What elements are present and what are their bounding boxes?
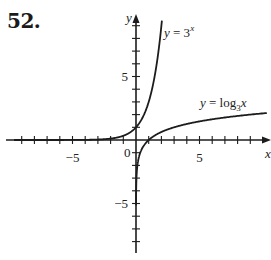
figure: 52. yx0−555−5y = 3xy = log3x — [0, 0, 271, 260]
y-tick-label: 5 — [122, 69, 129, 84]
y-tick-label: −5 — [114, 196, 128, 211]
origin-label: 0 — [124, 145, 131, 160]
axes — [6, 14, 271, 253]
x-tick-label: −5 — [66, 150, 80, 165]
exponential-curve-label: y = 3x — [162, 23, 194, 40]
coordinate-plane: yx0−555−5y = 3xy = log3x — [0, 0, 271, 260]
curves — [14, 21, 267, 206]
y-axis-label: y — [124, 10, 132, 25]
logarithm-curve-label: y = log3x — [198, 95, 247, 113]
y-axis-arrow-icon — [133, 14, 140, 23]
labels: yx0−555−5y = 3xy = log3x — [66, 10, 271, 211]
x-tick-label: 5 — [196, 150, 203, 165]
x-axis-label: x — [264, 146, 271, 161]
x-axis-arrow-icon — [262, 137, 271, 144]
